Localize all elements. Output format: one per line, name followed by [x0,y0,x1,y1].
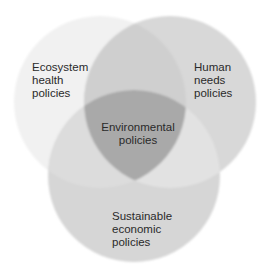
label-line: economic [112,223,172,236]
label-line: policies [32,87,88,100]
human-needs-label: Human needs policies [194,61,232,100]
label-line: Human [194,61,232,74]
label-line: policies [194,87,232,100]
label-line: needs [194,74,232,87]
label-line: Environmental [98,121,178,134]
label-line: policies [98,134,178,147]
environmental-label: Environmental policies [98,121,178,147]
ecosystem-label: Ecosystem health policies [32,61,88,100]
label-line: policies [112,236,172,249]
label-line: Sustainable [112,210,172,223]
label-line: health [32,74,88,87]
label-line: Ecosystem [32,61,88,74]
economic-label: Sustainable economic policies [112,210,172,249]
